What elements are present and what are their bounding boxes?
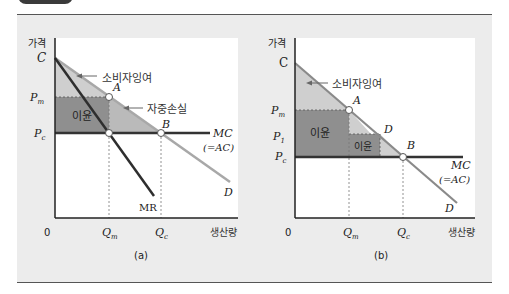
panel-a-label-d: D [223, 186, 233, 199]
panel-b-label-point-a: A [352, 94, 361, 107]
panel-b-label-c: C [279, 56, 288, 70]
panel-a-x-axis-label: 생산량 [210, 227, 237, 238]
panel-b-caption: (b) [374, 250, 388, 261]
panel-a-y-axis-label: 가격 [28, 37, 46, 49]
panel-a-label-point-a: A [112, 81, 121, 94]
panel-a-point-a [106, 94, 113, 101]
panel-b-y-axis-label: 가격 [268, 37, 286, 49]
panel-a-label-point-b: B [161, 118, 170, 131]
panel-b-profit-label-1: 이윤 [310, 127, 330, 140]
panel-b-origin-label: 0 [285, 227, 291, 238]
panel-a-label-ac: (=AC) [203, 142, 234, 153]
panel-b-label-mc: MC [450, 159, 471, 172]
panel-b-label-pm: Pm [270, 104, 285, 119]
panel-a-consumer-surplus-label: 소비자잉여 [102, 72, 152, 85]
panel-b-label-point-b: B [406, 139, 415, 152]
panel-a-caption: (a) [134, 250, 148, 261]
panel-b-profit-label-2: 이윤 [354, 141, 372, 152]
panel-b: 가격 C Pm P1 Pc 소비자잉여 A D 이윤 이윤 B MC (=AC)… [268, 37, 475, 261]
panel-a-label-pm: Pm [29, 91, 44, 106]
panel-a-label-pc: Pc [33, 127, 45, 142]
panel-b-label-d: D [444, 202, 454, 215]
panel-b-label-qc: Qc [397, 226, 410, 241]
panel-a-deadweight-loss-label: 자중손실 [147, 103, 187, 116]
panel-b-x-axis-label: 생산량 [448, 227, 475, 238]
panel-a: 가격 C Pm Pc 소비자잉여 A 자중손실 이윤 B MC (=AC) D … [28, 37, 238, 261]
panel-a-label-qc: Qc [155, 226, 168, 241]
panel-b-label-d-mid: D [383, 123, 393, 136]
panel-b-label-pc: Pc [274, 150, 286, 165]
panel-a-label-mr: MR [139, 202, 157, 213]
panel-b-point-a [346, 107, 353, 114]
panel-a-label-mc: MC [212, 127, 233, 140]
panel-b-point-b [400, 154, 407, 161]
panel-b-label-p1: P1 [272, 130, 285, 145]
figure-svg: 가격 C Pm Pc 소비자잉여 A 자중손실 이윤 B MC (=AC) D … [0, 0, 509, 294]
panel-a-origin-label: 0 [44, 227, 50, 238]
panel-b-label-ac: (=AC) [439, 174, 470, 185]
panel-a-label-qm: Qm [102, 226, 118, 241]
panel-b-label-qm: Qm [343, 226, 359, 241]
panel-a-profit-label: 이윤 [72, 110, 92, 123]
panel-a-label-c: C [37, 51, 46, 65]
panel-a-point-mr-mc [106, 130, 113, 137]
panel-b-consumer-surplus-label: 소비자잉여 [332, 78, 382, 91]
